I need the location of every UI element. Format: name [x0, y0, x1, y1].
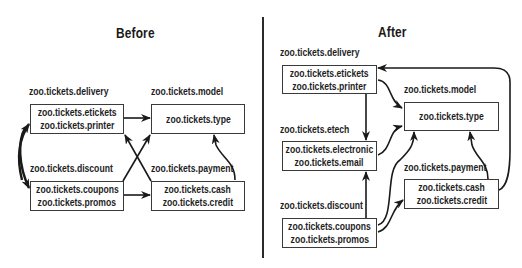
- class-credit: zoo.tickets.credit: [416, 194, 486, 207]
- after-etech-box: zoo.tickets.electronic zoo.tickets.email: [282, 141, 377, 171]
- class-coupons: zoo.tickets.coupons: [36, 183, 119, 196]
- after-arrow-delivery-to-model: [378, 80, 402, 108]
- before-payment-box: zoo.tickets.cash zoo.tickets.credit: [151, 181, 245, 211]
- before-arrow-payment-to-delivery: [125, 135, 151, 181]
- before-delivery-box: zoo.tickets.etickets zoo.tickets.printer: [30, 104, 124, 134]
- before-discount-label: zoo.tickets.discount: [30, 162, 113, 174]
- panel-divider: [262, 17, 264, 258]
- class-credit: zoo.tickets.credit: [163, 196, 233, 209]
- after-etech-label: zoo.tickets.etech: [280, 123, 349, 135]
- class-electronic: zoo.tickets.electronic: [286, 143, 374, 156]
- class-printer: zoo.tickets.printer: [292, 80, 366, 93]
- after-payment-box: zoo.tickets.cash zoo.tickets.credit: [404, 179, 499, 209]
- class-etickets: zoo.tickets.etickets: [38, 106, 117, 119]
- class-cash: zoo.tickets.cash: [418, 181, 485, 194]
- after-delivery-box: zoo.tickets.etickets zoo.tickets.printer: [282, 65, 377, 94]
- before-arrow-discount-to-model: [123, 135, 150, 181]
- after-arrow-discount-to-payment: [378, 200, 403, 232]
- before-arrow-discount-delivery-bidir: [20, 128, 29, 188]
- class-cash: zoo.tickets.cash: [165, 183, 232, 196]
- before-discount-box: zoo.tickets.coupons zoo.tickets.promos: [30, 181, 124, 211]
- before-model-label: zoo.tickets.model: [151, 85, 223, 97]
- class-type: zoo.tickets.type: [166, 113, 231, 126]
- after-discount-label: zoo.tickets.discount: [280, 199, 363, 211]
- before-title: Before: [116, 25, 155, 41]
- after-model-box: zoo.tickets.type: [404, 102, 499, 131]
- before-delivery-label: zoo.tickets.delivery: [29, 85, 108, 97]
- after-delivery-label: zoo.tickets.delivery: [280, 46, 359, 58]
- dependency-arrows: [0, 0, 522, 268]
- after-model-label: zoo.tickets.model: [404, 83, 476, 95]
- class-coupons: zoo.tickets.coupons: [288, 220, 371, 233]
- before-payment-label: zoo.tickets.payment: [151, 162, 233, 174]
- class-email: zoo.tickets.email: [295, 156, 364, 169]
- class-promos: zoo.tickets.promos: [38, 196, 116, 209]
- class-promos: zoo.tickets.promos: [290, 233, 368, 246]
- after-title: After: [378, 24, 407, 40]
- after-arrow-etech-to-model: [378, 126, 402, 155]
- before-model-box: zoo.tickets.type: [151, 104, 245, 134]
- class-type: zoo.tickets.type: [419, 110, 484, 123]
- after-payment-label: zoo.tickets.payment: [404, 161, 486, 173]
- class-etickets: zoo.tickets.etickets: [290, 67, 369, 80]
- after-discount-box: zoo.tickets.coupons zoo.tickets.promos: [282, 218, 377, 248]
- class-printer: zoo.tickets.printer: [40, 119, 114, 132]
- before-arrow-discount-to-delivery: [19, 124, 29, 180]
